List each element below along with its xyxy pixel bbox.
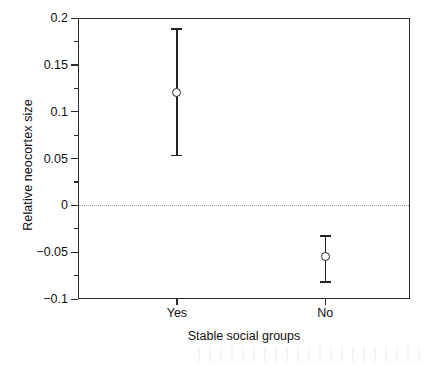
y-axis-minor-tick-mark [74, 228, 78, 229]
error-bar-cap-lower [320, 281, 331, 282]
y-axis-minor-tick-mark [74, 275, 78, 276]
y-axis-title: Relative neocortex size [21, 45, 35, 285]
chart-figure: Relative neocortex size 0.20.150.10.050−… [0, 0, 428, 365]
y-axis-tick-label: 0 [61, 196, 68, 214]
x-axis-title: Stable social groups [78, 329, 410, 343]
y-axis-tick-mark [71, 205, 78, 206]
zero-reference-line [79, 205, 409, 206]
y-axis-tick-label: 0.1 [51, 103, 68, 121]
y-axis-tick-label: 0.15 [44, 56, 68, 74]
y-axis-tick-label: 0.2 [51, 9, 68, 27]
scan-artifact [198, 346, 426, 362]
y-axis-tick-mark [71, 252, 78, 253]
x-axis-tick-label: Yes [137, 306, 217, 320]
error-bar-cap-upper [320, 235, 331, 236]
y-axis-tick-mark [71, 299, 78, 300]
y-axis-minor-tick-mark [74, 88, 78, 89]
plot-area [78, 18, 410, 299]
x-axis-tick-label: No [285, 306, 365, 320]
y-axis-tick-mark [71, 64, 78, 65]
y-axis-tick-mark [71, 158, 78, 159]
y-axis-tick-label: 0.05 [44, 150, 68, 168]
y-axis-tick-mark [71, 18, 78, 19]
y-axis-minor-tick-mark [74, 135, 78, 136]
y-axis-minor-tick-mark [74, 181, 78, 182]
y-axis-tick-mark [71, 111, 78, 112]
error-bar-cap-upper [171, 28, 182, 29]
x-axis-tick-mark [325, 299, 326, 305]
y-axis-minor-tick-mark [74, 41, 78, 42]
error-bar-cap-lower [171, 155, 182, 156]
x-axis-tick-mark [176, 299, 177, 305]
y-axis-tick-label: −0.05 [36, 243, 68, 261]
y-axis-tick-label: −0.1 [43, 290, 68, 308]
